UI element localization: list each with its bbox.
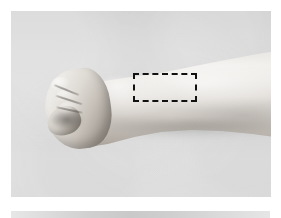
figure-page: [0, 0, 281, 218]
next-figure-top-edge: [11, 211, 270, 218]
dashed-region-box: [133, 73, 197, 102]
photo-vignette: [11, 11, 271, 197]
clinical-photograph: [11, 11, 271, 197]
